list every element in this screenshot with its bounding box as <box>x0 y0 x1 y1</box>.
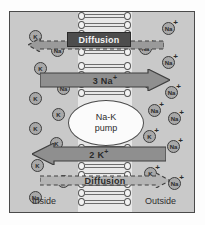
figure-canvas: KNaKNaKKKKKKNa Na+Na+Na+Na+Na+Na+Na+K+Na… <box>0 0 205 225</box>
lipid-head <box>78 198 85 206</box>
lipid-head <box>78 189 85 197</box>
lipid-tail-line <box>85 14 125 15</box>
lipid-tail-line <box>85 191 125 192</box>
ion-label: K <box>56 112 60 118</box>
lipid-tail-line <box>85 200 125 201</box>
ion-charge: + <box>154 127 159 135</box>
lipid-tail-line <box>85 26 125 27</box>
lipid-tail-line <box>85 64 125 65</box>
lipid-row <box>78 198 132 207</box>
lipid-head <box>124 12 131 20</box>
lipid-head-right <box>124 12 132 21</box>
ion-label: Na <box>171 116 179 122</box>
lipid-tail-line <box>85 17 125 18</box>
lipid-head-right <box>124 189 132 198</box>
ion-charge: + <box>173 53 178 61</box>
lipid-row <box>78 21 132 30</box>
outside-na-ion: Na+ <box>148 104 161 117</box>
lipid-tails <box>85 13 125 20</box>
ion-label: Na <box>151 108 159 114</box>
lipid-head <box>78 21 85 29</box>
ion-charge: + <box>179 109 184 117</box>
pump-label-line1: Na-K <box>96 112 117 123</box>
lipid-head-right <box>124 21 132 30</box>
lipid-tail-line <box>85 194 125 195</box>
diffusion-top-label-box: Diffusion <box>67 32 131 47</box>
lipid-tail-line <box>85 91 125 92</box>
lipid-tails <box>85 90 125 97</box>
lipid-tails <box>85 22 125 29</box>
lipid-row <box>78 189 132 198</box>
ion-label: K <box>147 134 151 140</box>
lipid-head <box>124 189 131 197</box>
diagram-frame: KNaKNaKKKKKKNa Na+Na+Na+Na+Na+Na+Na+K+Na… <box>9 11 195 213</box>
sodium-charge: + <box>113 74 117 81</box>
sodium-transport-label: 3 Na+ <box>93 74 118 86</box>
outside-na-ion: Na+ <box>162 22 175 35</box>
ion-label: Na <box>170 144 178 150</box>
inside-label: Inside <box>32 196 56 206</box>
lipid-tail-line <box>85 203 125 204</box>
na-k-pump: Na-K pump <box>68 100 144 146</box>
outside-k-ion: K+ <box>143 130 156 143</box>
outside-label: Outside <box>145 196 176 206</box>
ion-label: K <box>33 96 37 102</box>
ion-charge: + <box>179 174 184 182</box>
inside-k-ion: K <box>52 108 65 121</box>
lipid-tail-line <box>85 67 125 68</box>
ion-label: Na <box>165 60 173 66</box>
ion-charge: + <box>159 101 164 109</box>
potassium-transport-arrow: 2 K+ <box>32 143 166 165</box>
ion-label: Na <box>171 181 179 187</box>
ion-charge: + <box>176 83 181 91</box>
diffusion-bottom-label: Diffusion <box>85 176 126 186</box>
lipid-tail-line <box>85 167 125 168</box>
diffusion-top-label: Diffusion <box>79 35 120 45</box>
inside-k-ion: K <box>29 92 42 105</box>
outside-na-ion: Na+ <box>162 56 175 69</box>
potassium-transport-label: 2 K+ <box>89 148 108 160</box>
lipid-head-right <box>124 198 132 207</box>
lipid-head <box>124 198 131 206</box>
potassium-charge: + <box>104 148 108 155</box>
lipid-row <box>78 12 132 21</box>
ion-charge: + <box>178 137 183 145</box>
lipid-tail-line <box>85 53 125 54</box>
outside-na-ion: Na+ <box>167 140 180 153</box>
pump-label-line2: pump <box>95 123 118 134</box>
lipid-head <box>124 21 131 29</box>
ion-charge: + <box>155 164 160 172</box>
lipid-tail-line <box>85 94 125 95</box>
lipid-head <box>78 12 85 20</box>
lipid-tail-line <box>85 23 125 24</box>
lipid-tails <box>85 190 125 197</box>
outside-na-ion: Na+ <box>168 112 181 125</box>
ion-label: K <box>33 126 37 132</box>
ion-label: Na <box>165 26 173 32</box>
sodium-transport-arrow: 3 Na+ <box>40 69 170 91</box>
ion-charge: + <box>173 19 178 27</box>
inside-k-ion: K <box>29 122 42 135</box>
diffusion-arrow-bottom: Diffusion <box>40 173 170 188</box>
lipid-tails <box>85 199 125 206</box>
